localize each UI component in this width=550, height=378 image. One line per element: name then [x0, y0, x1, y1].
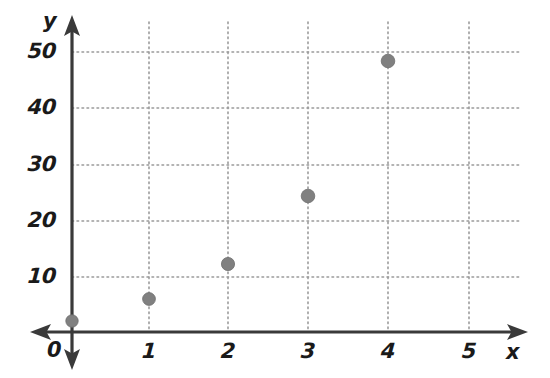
chart-canvas [0, 0, 550, 378]
x-tick-label-3: 3 [287, 341, 328, 362]
data-point [221, 257, 234, 270]
x-tick-label-5: 5 [448, 341, 489, 362]
scatter-plot-figure: 50 40 30 20 10 1 2 3 4 5 0 y x [0, 0, 550, 378]
y-tick-label-30: 30 [17, 154, 56, 175]
x-tick-label-1: 1 [128, 341, 169, 362]
y-tick-label-20: 20 [17, 210, 56, 231]
data-point [66, 315, 78, 327]
y-axis-label: y [43, 11, 57, 32]
data-point [301, 189, 315, 203]
y-tick-label-40: 40 [17, 97, 56, 118]
y-tick-label-50: 50 [17, 41, 56, 62]
x-axis-label: x [506, 342, 520, 363]
x-tick-label-4: 4 [367, 341, 408, 362]
gridlines-vertical [149, 22, 469, 332]
data-points [66, 54, 395, 327]
y-tick-label-10: 10 [17, 266, 56, 287]
data-point [381, 54, 395, 68]
x-axis [30, 324, 528, 340]
data-point [143, 293, 156, 306]
x-tick-label-2: 2 [207, 341, 248, 362]
gridlines-horizontal [72, 52, 522, 277]
origin-label: 0 [47, 340, 62, 361]
